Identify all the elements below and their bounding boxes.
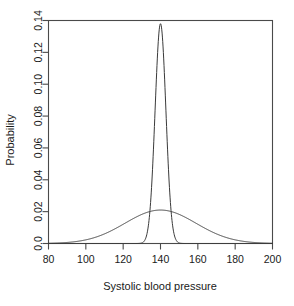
y-tick-label: 0.06 <box>32 138 44 159</box>
y-tick-label: 0.08 <box>32 106 44 127</box>
y-axis-tick-labels: 0.00.020.040.060.080.100.120.14 <box>32 10 44 251</box>
x-tick-label: 200 <box>264 253 282 265</box>
y-tick-label: 0.0 <box>32 236 44 251</box>
x-axis-ticks <box>49 244 273 250</box>
y-tick-label: 0.14 <box>32 10 44 31</box>
x-tick-label: 180 <box>226 253 244 265</box>
x-tick-label: 140 <box>152 253 170 265</box>
y-tick-label: 0.04 <box>32 169 44 190</box>
chart-figure: 80100120140160180200 0.00.020.040.060.08… <box>0 0 294 306</box>
y-tick-label: 0.10 <box>32 74 44 95</box>
x-tick-label: 100 <box>77 253 95 265</box>
chart-svg: 80100120140160180200 0.00.020.040.060.08… <box>0 0 294 306</box>
x-tick-label: 160 <box>189 253 207 265</box>
x-tick-label: 120 <box>114 253 132 265</box>
y-tick-label: 0.12 <box>32 42 44 63</box>
density-curve-wide <box>49 210 273 243</box>
y-axis-title: Probability <box>4 114 16 166</box>
x-axis-tick-labels: 80100120140160180200 <box>43 253 282 265</box>
y-tick-label: 0.02 <box>32 201 44 222</box>
x-axis-title: Systolic blood pressure <box>103 280 217 292</box>
x-tick-label: 80 <box>43 253 55 265</box>
